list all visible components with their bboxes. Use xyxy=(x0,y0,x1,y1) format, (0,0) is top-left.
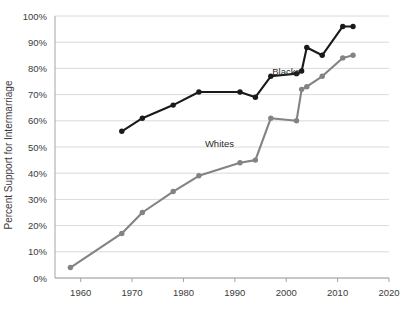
data-point xyxy=(304,84,309,89)
chart-container: 0%10%20%30%40%50%60%70%80%90%100% 196019… xyxy=(0,0,406,310)
data-point xyxy=(68,265,73,270)
data-point xyxy=(294,118,299,123)
data-point xyxy=(340,55,345,60)
data-point xyxy=(304,45,309,50)
data-point xyxy=(340,24,345,29)
y-tick-label-50: 50% xyxy=(28,142,48,153)
y-tick-label-70: 70% xyxy=(28,89,48,100)
x-tick-label-2010: 2010 xyxy=(327,287,348,298)
data-point xyxy=(350,53,355,58)
series-label-blacks: Blacks xyxy=(272,66,300,77)
x-tick-label-2020: 2020 xyxy=(378,287,399,298)
y-tick-label-20: 20% xyxy=(28,220,48,231)
y-tick-label-0: 0% xyxy=(33,273,47,284)
y-tick-label-100: 100% xyxy=(23,11,48,22)
data-point xyxy=(170,102,175,107)
x-tick-label-1980: 1980 xyxy=(173,287,194,298)
data-point xyxy=(320,53,325,58)
data-point xyxy=(196,173,201,178)
data-point xyxy=(196,89,201,94)
series-label-whites: Whites xyxy=(205,138,234,149)
data-point xyxy=(320,74,325,79)
x-tick-label-2000: 2000 xyxy=(276,287,297,298)
data-point xyxy=(268,115,273,120)
y-tick-label-60: 60% xyxy=(28,115,48,126)
data-point xyxy=(253,157,258,162)
y-axis-title: Percent Support for Intermarriage xyxy=(3,80,14,229)
data-point xyxy=(237,160,242,165)
data-point xyxy=(299,87,304,92)
x-tick-label-1990: 1990 xyxy=(224,287,245,298)
y-tick-label-30: 30% xyxy=(28,194,48,205)
data-point xyxy=(140,210,145,215)
x-tick-label-1970: 1970 xyxy=(122,287,143,298)
data-point xyxy=(140,115,145,120)
y-tick-label-10: 10% xyxy=(28,246,48,257)
y-tick-label-40: 40% xyxy=(28,168,48,179)
data-point xyxy=(170,189,175,194)
data-point xyxy=(119,231,124,236)
y-tick-label-80: 80% xyxy=(28,63,48,74)
intermarriage-support-line-chart: 0%10%20%30%40%50%60%70%80%90%100% 196019… xyxy=(0,0,406,310)
data-point xyxy=(253,95,258,100)
data-point xyxy=(350,24,355,29)
data-point xyxy=(119,129,124,134)
x-tick-label-1960: 1960 xyxy=(70,287,91,298)
plot-background xyxy=(0,0,406,310)
y-tick-label-90: 90% xyxy=(28,37,48,48)
data-point xyxy=(237,89,242,94)
